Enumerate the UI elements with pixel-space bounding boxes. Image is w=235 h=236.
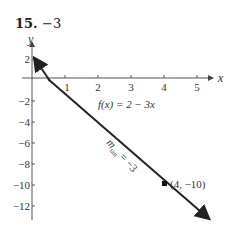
y-tick-label: −6 bbox=[18, 137, 30, 149]
y-tick-label: −10 bbox=[13, 179, 31, 191]
function-label: f(x) = 2 − 3x bbox=[98, 98, 155, 111]
y-tick-label: −4 bbox=[18, 116, 30, 128]
tangent-point bbox=[162, 181, 167, 186]
y-tick-label: −12 bbox=[13, 200, 30, 212]
x-tick-label: 1 bbox=[64, 81, 70, 93]
y-tick-label: −2 bbox=[18, 95, 30, 107]
x-tick-label: 2 bbox=[95, 81, 101, 93]
point-label: (4, −10) bbox=[170, 178, 206, 191]
x-tick-label: 3 bbox=[128, 81, 134, 93]
x-tick-label: 4 bbox=[161, 81, 167, 93]
y-tick-label: −8 bbox=[18, 158, 30, 170]
chart: x y 1 2 3 4 5 2 −2 −4 −6 −8 −10 −12 (4, … bbox=[0, 0, 235, 236]
y-tick-label: 2 bbox=[25, 53, 31, 65]
x-tick-label: 5 bbox=[194, 81, 200, 93]
x-axis-label: x bbox=[217, 71, 224, 85]
y-axis-label: y bbox=[27, 32, 34, 46]
